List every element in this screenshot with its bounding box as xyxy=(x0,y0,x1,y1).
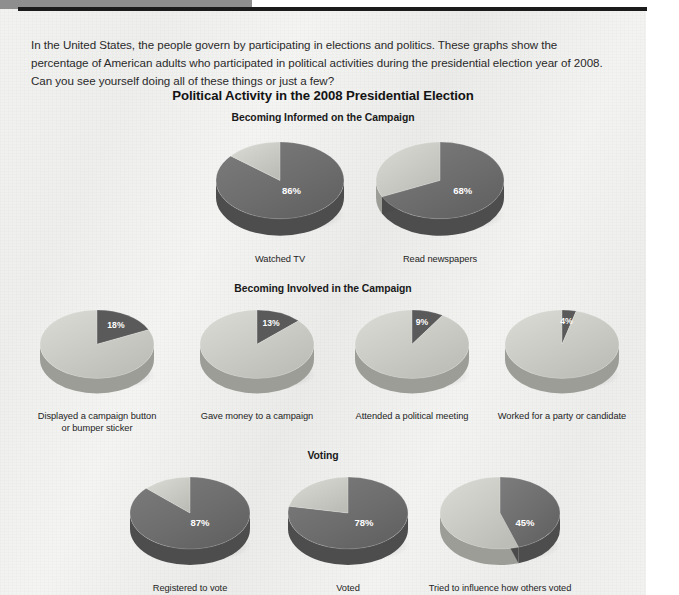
pie-chart: 86% xyxy=(206,132,354,252)
pie-chart-label: Read newspapers xyxy=(365,254,515,266)
pie-chart: 45% xyxy=(430,467,570,581)
pie-percentage-label: 78% xyxy=(355,517,375,528)
page-title: Political Activity in the 2008 President… xyxy=(0,88,646,103)
pie-percentage-label: 45% xyxy=(515,517,535,528)
section-title-becoming-involved: Becoming Involved in the Campaign xyxy=(0,283,646,294)
intro-paragraph: In the United States, the people govern … xyxy=(31,36,606,91)
pie-chart-label: Watched TV xyxy=(205,254,355,266)
pie-percentage-label: 9% xyxy=(416,317,429,327)
pie-chart-cell: 9%Attended a political meeting xyxy=(337,300,487,423)
pie-percentage-label: 68% xyxy=(453,185,473,196)
pie-chart: 4% xyxy=(495,300,629,409)
pie-percentage-label: 13% xyxy=(262,318,280,328)
pie-chart: 87% xyxy=(120,467,260,581)
pie-chart-cell: 13%Gave money to a campaign xyxy=(182,300,332,423)
page-root: In the United States, the people govern … xyxy=(0,0,679,595)
pie-chart-label: Displayed a campaign buttonor bumper sti… xyxy=(22,411,172,434)
pie-chart: 68% xyxy=(366,132,514,252)
pie-chart: 78% xyxy=(278,467,418,581)
pie-chart-label: Gave money to a campaign xyxy=(182,411,332,423)
pie-chart-label: Worked for a party or candidate xyxy=(487,411,637,423)
pie-chart-cell: 4%Worked for a party or candidate xyxy=(487,300,637,423)
pie-chart: 13% xyxy=(190,300,324,409)
pie-chart-label: Attended a political meeting xyxy=(337,411,487,423)
pie-chart-cell: 86%Watched TV xyxy=(205,132,355,265)
pie-chart-label: Voted xyxy=(268,583,428,595)
header-rule xyxy=(18,7,647,11)
pie-percentage-label: 87% xyxy=(191,517,211,528)
pie-chart-cell: 78%Voted xyxy=(268,467,428,595)
pie-chart-cell: 18%Displayed a campaign buttonor bumper … xyxy=(22,300,172,434)
section-title-becoming-informed: Becoming Informed on the Campaign xyxy=(0,112,646,123)
pie-slice-remainder xyxy=(355,310,469,378)
pie-percentage-label: 4% xyxy=(560,316,573,326)
pie-percentage-label: 86% xyxy=(282,185,302,196)
pie-chart: 18% xyxy=(30,300,164,409)
pie-chart-cell: 87%Registered to vote xyxy=(110,467,270,595)
pie-chart-cell: 45%Tried to influence how others voted xyxy=(420,467,580,595)
pie-chart: 9% xyxy=(345,300,479,409)
pie-percentage-label: 18% xyxy=(107,320,125,330)
pie-chart-label: Tried to influence how others voted xyxy=(420,583,580,595)
pie-chart-cell: 68%Read newspapers xyxy=(365,132,515,265)
pie-chart-label: Registered to vote xyxy=(110,583,270,595)
section-title-voting: Voting xyxy=(0,450,646,461)
